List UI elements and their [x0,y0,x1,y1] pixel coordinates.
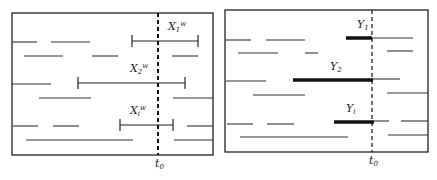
window-bracket: X2w [78,62,185,89]
panel-right: Y1Y2Yit0 [225,10,428,168]
interval-label: Y1 [357,18,369,32]
t0-label: t0 [155,157,164,171]
observed-interval: Y1 [346,18,372,38]
t0-label: t0 [369,154,378,168]
bracket-label: X1w [167,20,186,34]
interval-diagram: X1wX2wXiwt0Y1Y2Yit0 [0,0,437,180]
bracket-label: Xiw [129,104,146,118]
observed-interval: Y2 [293,60,373,80]
window-bracket: X1w [132,20,198,47]
panel-left: X1wX2wXiwt0 [12,13,213,171]
window-bracket: Xiw [120,104,173,131]
interval-label: Yi [346,102,356,116]
observed-interval: Yi [334,102,374,122]
bracket-label: X2w [129,62,148,76]
interval-label: Y2 [330,60,342,74]
